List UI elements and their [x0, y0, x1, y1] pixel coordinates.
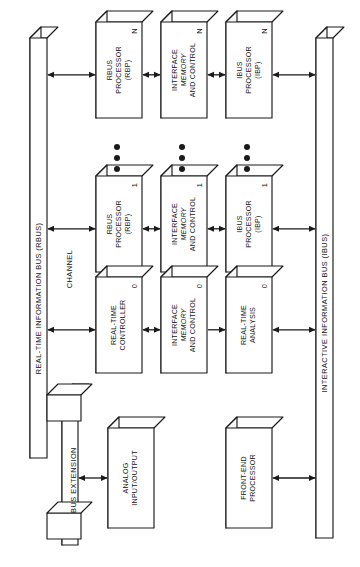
ibp_n-label-line: PROCESSOR: [245, 46, 253, 94]
ellipsis-dot: [114, 144, 120, 150]
rbp_n-label-line: RBUS: [106, 60, 114, 81]
ibp_1-label-line: PROCESSOR: [245, 200, 253, 248]
bus-extension-arm-front: [47, 395, 81, 421]
rbp_1-label-line: PROCESSOR: [115, 200, 123, 248]
imc_0-label-line: MEMORY: [180, 307, 188, 341]
diagram-canvas: REAL-TIME INFORMATION BUS (RBUS)INTERACT…: [0, 0, 360, 567]
rbp_n-label-line: PROCESSOR: [115, 46, 123, 94]
ibp_n-label-line: (IBP): [254, 61, 262, 78]
imc_1-label-line: MEMORY: [180, 206, 188, 240]
ibp_n-label-line: IBUS: [236, 61, 244, 79]
bus-extension-arm2-front: [47, 513, 81, 539]
imc_1-label-line: INTERFACE: [171, 203, 179, 245]
bus-extension-annotation: BUS EXTENSION: [69, 447, 78, 513]
channel-annotation: CHANNEL: [65, 250, 74, 288]
rtc_0-label-line: REAL-TIME: [110, 305, 118, 345]
ibus-label: INTERACTIVE INFORMATION BUS (IBUS): [320, 234, 329, 393]
rtc_0-label-line: CONTROLLER: [119, 300, 127, 351]
ellipsis-dot: [244, 144, 250, 150]
rbp_1-label-line: (RBP): [124, 214, 132, 235]
ellipsis-dot: [114, 166, 120, 172]
ibp_n-index: N: [260, 28, 269, 34]
rbus-label: REAL-TIME INFORMATION BUS (RBUS): [34, 222, 43, 374]
architecture-diagram: REAL-TIME INFORMATION BUS (RBUS)INTERACT…: [0, 0, 360, 567]
imc_n-index: N: [195, 28, 204, 34]
imc_0-label-line: INTERFACE: [171, 304, 179, 346]
rtc_0-index: 0: [130, 284, 139, 288]
ibp_1-index: 1: [260, 183, 269, 187]
fep-label-line: FRONT-END: [240, 456, 248, 500]
ibp_1-label-line: IBUS: [236, 215, 244, 233]
imc_n-label-line: INTERFACE: [171, 49, 179, 91]
ellipsis-dot: [179, 166, 185, 172]
imc_0-index: 0: [195, 284, 204, 288]
ellipsis-dot: [179, 155, 185, 161]
ellipsis-dot: [244, 155, 250, 161]
imc_1-index: 1: [195, 183, 204, 187]
rta_0-label-line: ANALYSIS: [249, 307, 257, 343]
imc_0-label-line: AND CONTROL: [189, 298, 197, 352]
aio-label-line: INPUT/OUTPUT: [131, 450, 139, 506]
fep-label-group: FRONT-ENDPROCESSOR: [240, 454, 257, 502]
imc_1-label-line: AND CONTROL: [189, 197, 197, 251]
rbp_1-label-line: RBUS: [106, 214, 114, 235]
aio-label-line: ANALOG: [122, 462, 130, 493]
rta_0-label-line: REAL-TIME: [240, 305, 248, 345]
bus-extension-arm-top: [47, 384, 92, 395]
fep-label-line: PROCESSOR: [249, 454, 257, 502]
imc_n-label-line: AND CONTROL: [189, 43, 197, 97]
rbp_n-label-line: (RBP): [124, 60, 132, 81]
ellipsis-dot: [114, 155, 120, 161]
rbp_1-index: 1: [130, 183, 139, 187]
rbp_n-index: N: [130, 28, 139, 34]
imc_n-label-line: MEMORY: [180, 52, 188, 86]
ellipsis-dot: [179, 144, 185, 150]
ibp_1-label-line: (IBP): [254, 215, 262, 232]
ellipsis-dot: [244, 166, 250, 172]
rta_0-index: 0: [260, 284, 269, 288]
